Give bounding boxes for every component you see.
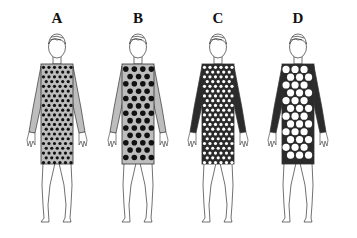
figure-drawing <box>178 0 258 238</box>
dress-figure-c: C <box>178 0 258 238</box>
head <box>49 34 66 58</box>
head <box>290 34 307 58</box>
head <box>210 34 227 58</box>
legs <box>282 163 313 222</box>
figure-drawing <box>258 0 338 238</box>
figure-drawing <box>17 0 97 238</box>
legs <box>202 163 233 222</box>
legs <box>41 163 72 222</box>
legs <box>122 163 153 222</box>
dress-figure-a: A <box>17 0 97 238</box>
figure-drawing <box>98 0 178 238</box>
dress-figure-d: D <box>258 0 338 238</box>
head <box>130 34 147 58</box>
dress-figure-b: B <box>98 0 178 238</box>
